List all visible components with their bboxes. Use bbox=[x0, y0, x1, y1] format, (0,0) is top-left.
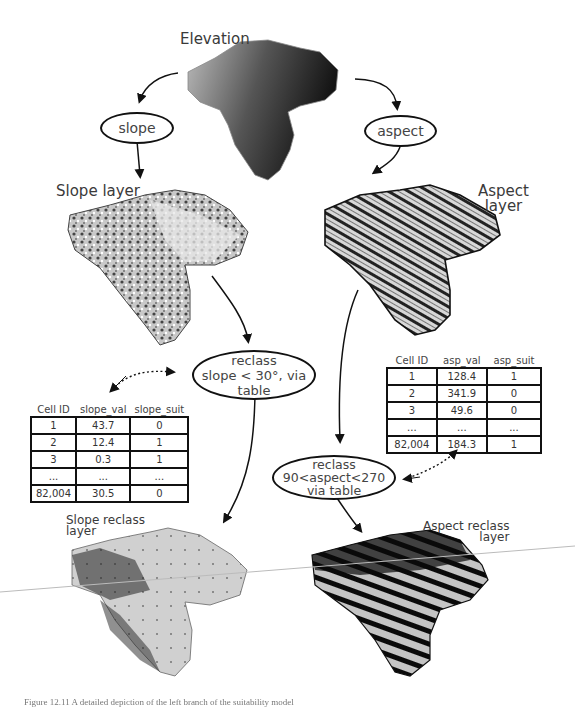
cell: 1 bbox=[31, 417, 76, 434]
table-row: 82,004184.31 bbox=[387, 436, 541, 453]
aspect-table: Cell ID asp_val asp_suit 1128.41 2341.90… bbox=[386, 355, 542, 454]
dashed-arrow-aspect-table bbox=[408, 452, 455, 478]
header-asp-suit: asp_suit bbox=[487, 355, 541, 368]
cell: 0 bbox=[130, 417, 188, 434]
slope-table-header: Cell ID slope_val slope_suit bbox=[31, 404, 188, 417]
cell: ... bbox=[387, 419, 437, 436]
aspect-layer-map bbox=[325, 185, 500, 335]
cell: 3 bbox=[31, 451, 76, 468]
elevation-map bbox=[188, 40, 338, 180]
aspect-operation-label: aspect bbox=[377, 124, 424, 139]
slope-layer-label: Slope layer bbox=[56, 182, 140, 200]
arrow-slopelayer-to-reclass bbox=[212, 276, 248, 340]
table-row: 349.60 bbox=[387, 402, 541, 419]
table-row: 143.70 bbox=[31, 417, 188, 434]
cell: 0 bbox=[487, 385, 541, 402]
reclass-slope-line3: table bbox=[238, 383, 271, 398]
cell: 1 bbox=[387, 368, 437, 385]
arrow-elev-to-slope bbox=[140, 73, 178, 100]
slope-table: Cell ID slope_val slope_suit 143.70 212.… bbox=[30, 404, 189, 503]
arrow-aspectlayer-to-reclass bbox=[339, 290, 358, 440]
table-row: ......... bbox=[31, 468, 188, 485]
cell: 2 bbox=[387, 385, 437, 402]
reclass-slope-line1: reclass bbox=[231, 353, 276, 368]
aspect-layer-label: Aspect layer bbox=[478, 184, 529, 214]
header-asp-val: asp_val bbox=[437, 355, 487, 368]
cell: 184.3 bbox=[437, 436, 487, 453]
elevation-title: Elevation bbox=[180, 30, 250, 48]
cell: 49.6 bbox=[437, 402, 487, 419]
table-row: 2341.90 bbox=[387, 385, 541, 402]
reclass-aspect-operation[interactable]: reclass 90<aspect<270 via table bbox=[272, 455, 396, 500]
table-row: 1128.41 bbox=[387, 368, 541, 385]
cell: 0 bbox=[130, 485, 188, 502]
aspect-operation[interactable]: aspect bbox=[364, 115, 437, 147]
reclass-aspect-line3: via table bbox=[307, 484, 361, 497]
cell: 341.9 bbox=[437, 385, 487, 402]
cell: 0 bbox=[487, 402, 541, 419]
cell: ... bbox=[130, 468, 188, 485]
cell: 82,004 bbox=[387, 436, 437, 453]
reclass-slope-operation[interactable]: reclass slope < 30°, via table bbox=[192, 350, 316, 400]
cell: 0.3 bbox=[76, 451, 130, 468]
cell: 1 bbox=[130, 434, 188, 451]
cell: 128.4 bbox=[437, 368, 487, 385]
table-row: 30.31 bbox=[31, 451, 188, 468]
aspect-reclass-label: Aspect reclass layer bbox=[423, 521, 509, 543]
cell: 1 bbox=[487, 436, 541, 453]
cell: 43.7 bbox=[76, 417, 130, 434]
arrow-reclass-to-slope-reclass bbox=[225, 396, 255, 520]
arrow-reclass-to-aspect-reclass bbox=[337, 498, 360, 530]
cell: 12.4 bbox=[76, 434, 130, 451]
cell: ... bbox=[487, 419, 541, 436]
slope-reclass-label-line2: layer bbox=[66, 526, 145, 537]
header-slope-suit: slope_suit bbox=[130, 404, 188, 417]
dashed-arrow-slope-table bbox=[115, 371, 172, 387]
cell: 82,004 bbox=[31, 485, 76, 502]
aspect-reclass-label-line2: layer bbox=[423, 532, 509, 543]
slope-operation[interactable]: slope bbox=[100, 112, 174, 144]
aspect-table-header: Cell ID asp_val asp_suit bbox=[387, 355, 541, 368]
reclass-slope-line2: slope < 30°, via bbox=[202, 368, 306, 383]
cell: 1 bbox=[130, 451, 188, 468]
slope-operation-label: slope bbox=[118, 121, 155, 136]
cell: 1 bbox=[487, 368, 541, 385]
table-row: 82,00430.50 bbox=[31, 485, 188, 502]
arrow-elev-to-aspect bbox=[355, 79, 397, 107]
arrow-slope-to-layer bbox=[137, 141, 140, 175]
table-row: ......... bbox=[387, 419, 541, 436]
header-cell-id: Cell ID bbox=[387, 355, 437, 368]
slope-reclass-label: Slope reclass layer bbox=[66, 515, 145, 537]
aspect-layer-label-line2: layer bbox=[478, 199, 529, 214]
figure-caption: Figure 12.11 A detailed depiction of the… bbox=[24, 697, 294, 707]
cell: ... bbox=[76, 468, 130, 485]
arrow-aspect-to-layer bbox=[375, 147, 400, 172]
cell: 3 bbox=[387, 402, 437, 419]
header-cell-id: Cell ID bbox=[31, 404, 76, 417]
cell: 2 bbox=[31, 434, 76, 451]
header-slope-val: slope_val bbox=[76, 404, 130, 417]
cell: ... bbox=[31, 468, 76, 485]
cell: 30.5 bbox=[76, 485, 130, 502]
cell: ... bbox=[437, 419, 487, 436]
table-row: 212.41 bbox=[31, 434, 188, 451]
